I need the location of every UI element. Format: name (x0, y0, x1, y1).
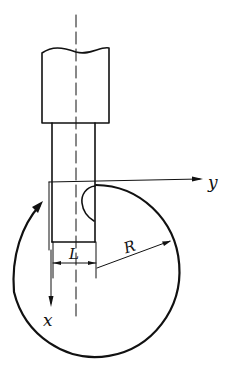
radius-label: R (121, 237, 138, 258)
rotation-arrow-arc (14, 205, 40, 292)
dimension-arrow-left-icon (53, 261, 61, 265)
cutter-profile (82, 186, 95, 221)
width-dimension-label: L (68, 245, 79, 263)
y-axis-line (49, 179, 200, 182)
dimension-arrow-right-icon (88, 261, 96, 265)
y-axis-arrowhead-icon (192, 177, 203, 182)
diagram-canvas: y x L R (0, 0, 234, 371)
radius-arrowhead-icon (162, 241, 171, 246)
x-axis-label: x (43, 310, 53, 330)
y-axis-label: y (207, 172, 218, 192)
x-axis-arrowhead-icon (49, 296, 54, 307)
